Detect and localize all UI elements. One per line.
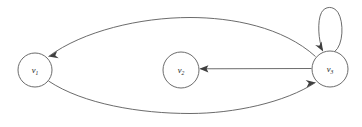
- edge-v3-self-loop-arrowhead: [315, 42, 323, 52]
- edge-v3-to-v1-arrowhead: [49, 51, 59, 58]
- node-v3-label-subscript: 3: [329, 69, 333, 75]
- directed-graph-figure: v1 v2 v3: [0, 0, 362, 127]
- node-v1[interactable]: v1: [18, 53, 52, 87]
- edge-v3-to-v1-path: [49, 18, 316, 57]
- node-v1-label-subscript: 1: [35, 70, 38, 76]
- nodes-layer: v1 v2 v3: [18, 51, 348, 88]
- node-v3[interactable]: v3: [312, 51, 348, 87]
- edge-v3-self-loop[interactable]: [315, 7, 342, 51]
- node-v2-label-subscript: 2: [181, 70, 184, 76]
- edge-v3-self-loop-path: [319, 7, 342, 51]
- graph-canvas: v1 v2 v3: [0, 0, 362, 127]
- edge-v3-to-v2[interactable]: [199, 65, 311, 72]
- node-v2[interactable]: v2: [163, 52, 199, 88]
